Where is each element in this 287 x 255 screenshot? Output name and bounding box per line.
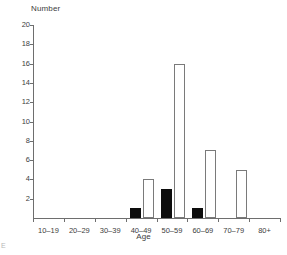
x-axis-tick-mark <box>249 218 250 222</box>
x-axis-title: Age <box>0 232 287 241</box>
bar <box>236 170 247 218</box>
y-axis-tick-label: 14 <box>22 78 30 87</box>
bars-layer <box>34 25 280 218</box>
y-axis-tick-label: 4 <box>26 174 30 183</box>
bar <box>143 179 154 218</box>
x-axis-tick-mark <box>157 218 158 222</box>
x-axis-tick-mark <box>95 218 96 222</box>
y-axis-tick-label: 18 <box>22 39 30 48</box>
bar <box>130 208 141 218</box>
bar <box>161 189 172 218</box>
x-axis-tick-mark <box>126 218 127 222</box>
figure-histogram: Number 2468101214161820 10–1920–2930–394… <box>0 0 287 255</box>
x-axis-tick-mark <box>187 218 188 222</box>
y-axis-tick-label: 6 <box>26 155 30 164</box>
x-axis-tick-mark <box>64 218 65 222</box>
y-axis-tick-label: 20 <box>22 20 30 29</box>
plot-area: 2468101214161820 10–1920–2930–3940–4950–… <box>33 25 280 218</box>
x-axis-tick-mark <box>218 218 219 222</box>
bar <box>174 64 185 218</box>
bar <box>205 150 216 218</box>
y-axis-tick-label: 12 <box>22 97 30 106</box>
y-axis-tick-label: 2 <box>26 194 30 203</box>
y-axis-title: Number <box>31 4 60 13</box>
caption-artifact: E <box>1 242 11 251</box>
y-axis-tick-label: 8 <box>26 136 30 145</box>
x-axis-tick-mark <box>280 218 281 222</box>
x-axis-tick-mark <box>33 218 34 222</box>
y-axis-tick-label: 10 <box>22 117 30 126</box>
y-axis-tick-label: 16 <box>22 59 30 68</box>
bar <box>192 208 203 218</box>
